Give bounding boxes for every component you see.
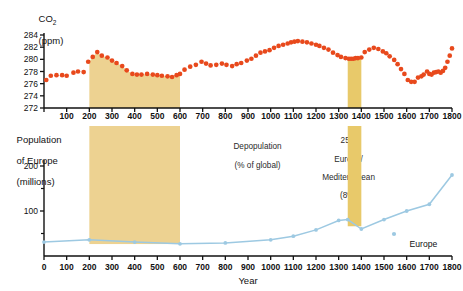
co2-data-point [76, 69, 81, 74]
co2-y-tick-label: 278 [24, 67, 38, 77]
co2-data-point [60, 73, 65, 78]
co2-data-point [359, 55, 364, 60]
population-data-point [178, 242, 182, 246]
co2-data-point [362, 50, 367, 55]
co2-x-tick-label: 1400 [352, 111, 371, 121]
population-data-point [87, 238, 91, 242]
legend-marker-icon [392, 232, 396, 236]
population-data-point [346, 218, 350, 222]
co2-x-tick-label: 800 [218, 111, 232, 121]
co2-y-tick-label: 282 [24, 42, 38, 52]
co2-data-point [392, 58, 397, 63]
population-y-tick-label: 200 [24, 161, 38, 171]
co2-data-point [367, 47, 372, 52]
co2-data-point [371, 45, 376, 50]
population-data-point [291, 234, 295, 238]
population-x-tick-label: 1700 [420, 262, 439, 272]
co2-data-point [245, 58, 250, 63]
co2-data-point [178, 72, 183, 77]
co2-data-point [81, 70, 86, 75]
population-x-tick-label: 200 [82, 262, 96, 272]
co2-data-point [105, 55, 110, 60]
co2-data-point [281, 42, 286, 47]
co2-x-tick-label: 100 [60, 111, 74, 121]
co2-x-tick-label: 1300 [329, 111, 348, 121]
co2-x-tick-label: 400 [128, 111, 142, 121]
co2-data-point [402, 72, 407, 77]
co2-data-point [300, 39, 305, 44]
co2-x-tick-label: 1600 [397, 111, 416, 121]
population-data-point [427, 202, 431, 206]
co2-x-tick-label: 300 [105, 111, 119, 121]
population-x-tick-label: 1300 [329, 262, 348, 272]
co2-x-tick-label: 1100 [284, 111, 303, 121]
population-x-tick-label: 400 [128, 262, 142, 272]
co2-data-point [387, 54, 392, 59]
co2-data-point [258, 50, 263, 55]
co2-data-point [267, 48, 272, 53]
co2-data-point [48, 73, 53, 78]
co2-data-point [199, 59, 204, 64]
x-axis-title: Year [238, 275, 257, 286]
co2-y-tick-label: 272 [24, 103, 38, 113]
population-data-point [133, 240, 137, 244]
co2-data-point [317, 44, 322, 49]
co2-data-point [204, 61, 209, 66]
co2-data-point [395, 62, 400, 67]
co2-data-point [234, 62, 239, 67]
co2-data-point [120, 64, 125, 69]
co2-data-point [326, 47, 331, 52]
population-x-tick-label: 100 [60, 262, 74, 272]
co2-x-tick-label: 1000 [261, 111, 280, 121]
co2-data-point [296, 39, 301, 44]
co2-data-point [160, 73, 165, 78]
figure-co2-population: CO2 (ppm) Population of Europe (millions… [0, 0, 463, 291]
co2-data-point [170, 75, 175, 80]
co2-data-point [90, 55, 95, 60]
co2-data-point [188, 64, 193, 69]
population-data-point [269, 238, 273, 242]
co2-data-point [150, 72, 155, 77]
population-shaded-band-1 [348, 126, 362, 226]
co2-shaded-band-1 [348, 58, 362, 108]
population-data-point [450, 173, 454, 177]
co2-y-tick-label: 276 [24, 79, 38, 89]
population-data-point [314, 228, 318, 232]
plot-canvas: 2722742762782802822841002003004005006007… [0, 0, 463, 291]
population-x-tick-label: 0 [42, 262, 47, 272]
co2-data-point [272, 45, 277, 50]
co2-data-point [155, 73, 160, 78]
co2-data-point [447, 53, 452, 58]
co2-x-tick-label: 1800 [443, 111, 462, 121]
co2-data-point [309, 41, 314, 46]
co2-x-tick-label: 900 [241, 111, 255, 121]
co2-data-point [194, 62, 199, 67]
co2-data-point [182, 67, 187, 72]
population-shaded-band-0 [89, 126, 180, 244]
co2-data-point [224, 62, 229, 67]
co2-data-point [376, 47, 381, 52]
population-x-tick-label: 600 [173, 262, 187, 272]
co2-shaded-band-0 [89, 52, 180, 108]
population-x-tick-label: 1000 [261, 262, 280, 272]
population-x-tick-label: 700 [196, 262, 210, 272]
population-x-tick-label: 500 [150, 262, 164, 272]
co2-data-point [254, 53, 259, 58]
population-x-tick-label: 300 [105, 262, 119, 272]
co2-data-point [214, 62, 219, 67]
co2-data-point [110, 58, 115, 63]
co2-data-point [331, 50, 336, 55]
co2-data-point [99, 53, 104, 58]
co2-data-point [145, 72, 150, 77]
population-x-tick-label: 800 [218, 262, 232, 272]
population-x-tick-label: 1800 [443, 262, 462, 272]
population-x-tick-label: 1100 [284, 262, 303, 272]
population-data-point [359, 227, 363, 231]
population-x-tick-label: 1500 [375, 262, 394, 272]
co2-x-tick-label: 600 [173, 111, 187, 121]
population-data-point [382, 218, 386, 222]
population-x-tick-label: 1200 [307, 262, 326, 272]
co2-data-point [263, 49, 268, 54]
co2-data-point [305, 40, 310, 45]
co2-data-point [135, 72, 140, 77]
